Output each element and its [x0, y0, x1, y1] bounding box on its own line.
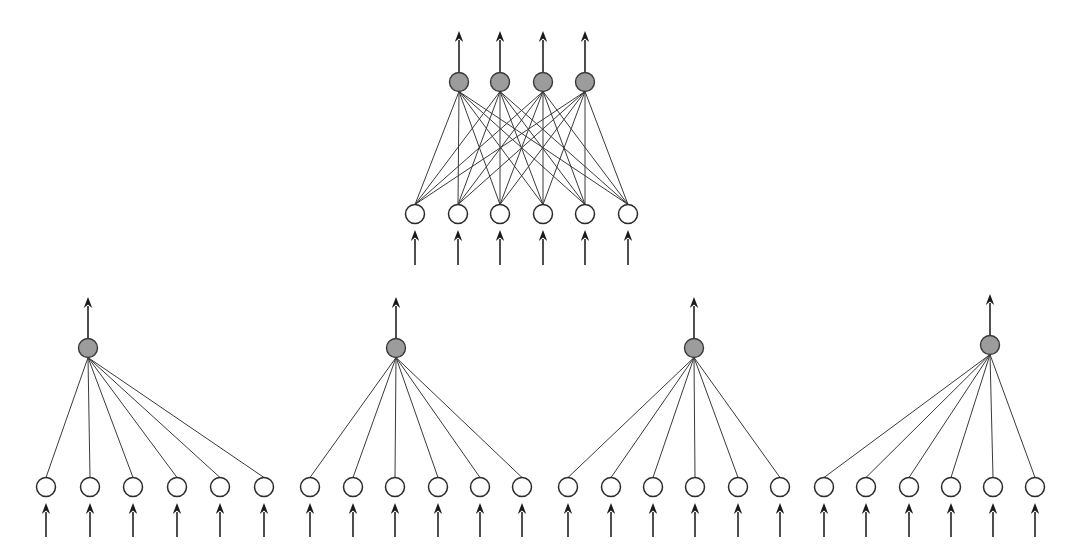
input-arrow-module-3-4 [691, 503, 699, 537]
input-node[interactable] [168, 478, 187, 497]
output-arrow-top-network-3 [539, 31, 547, 72]
input-node[interactable] [471, 478, 490, 497]
edge-m1-out-1-m1-in-4 [88, 358, 177, 478]
output-node[interactable] [491, 73, 510, 92]
edge-m1-out-1-m1-in-3 [88, 358, 133, 478]
input-node[interactable] [513, 478, 532, 497]
edge-m1-out-1-m1-in-6 [88, 358, 264, 478]
edge-m4-out-1-m4-in-5 [990, 355, 993, 478]
input-arrow-module-2-5 [476, 503, 484, 537]
input-arrow-module-4-2 [862, 503, 870, 537]
input-node[interactable] [491, 205, 510, 224]
input-node[interactable] [559, 478, 578, 497]
input-arrow-module-1-6 [260, 503, 268, 537]
input-arrow-module-4-1 [820, 503, 828, 537]
input-node[interactable] [576, 205, 595, 224]
output-node[interactable] [981, 336, 1000, 355]
output-arrow-top-network-4 [581, 31, 589, 72]
edge-m4-out-1-m4-in-6 [990, 355, 1035, 478]
input-node[interactable] [124, 478, 143, 497]
input-arrow-module-1-5 [216, 503, 224, 537]
input-arrow-module-3-1 [564, 503, 572, 537]
input-node[interactable] [857, 478, 876, 497]
input-arrow-module-1-2 [86, 503, 94, 537]
input-arrow-module-2-3 [391, 503, 399, 537]
edge-m1-out-1-m1-in-2 [88, 358, 90, 478]
output-node[interactable] [576, 73, 595, 92]
input-node[interactable] [406, 205, 425, 224]
input-node[interactable] [686, 478, 705, 497]
input-arrow-module-1-4 [173, 503, 181, 537]
output-arrow-module-2-1 [392, 297, 400, 338]
network-canvas [0, 0, 1083, 560]
edge-m3-out-1-m3-in-4 [694, 358, 695, 478]
input-node[interactable] [301, 478, 320, 497]
input-node[interactable] [429, 478, 448, 497]
input-node[interactable] [1026, 478, 1045, 497]
input-arrow-top-network-4 [539, 230, 547, 265]
input-node[interactable] [771, 478, 790, 497]
input-arrow-module-3-3 [649, 503, 657, 537]
input-node[interactable] [255, 478, 274, 497]
edge-m1-out-1-m1-in-1 [46, 358, 88, 478]
input-node[interactable] [211, 478, 230, 497]
input-node[interactable] [984, 478, 1003, 497]
input-node[interactable] [815, 478, 834, 497]
edge-m3-out-1-m3-in-6 [694, 358, 780, 478]
output-arrow-module-4-1 [986, 294, 994, 335]
input-arrow-module-2-4 [434, 503, 442, 537]
input-arrow-module-2-1 [306, 503, 314, 537]
edge-m2-out-1-m2-in-2 [353, 358, 396, 478]
output-node[interactable] [450, 73, 469, 92]
input-arrow-top-network-1 [411, 230, 419, 265]
edge-m2-out-1-m2-in-5 [396, 358, 480, 478]
edge-m3-out-1-m3-in-1 [568, 358, 694, 478]
edge-m2-out-1-m2-in-6 [396, 358, 522, 478]
edge-m1-out-1-m1-in-5 [88, 358, 220, 478]
input-node[interactable] [449, 205, 468, 224]
edge-t-out-3-t-in-1 [415, 92, 543, 205]
input-arrow-module-4-4 [947, 503, 955, 537]
input-node[interactable] [37, 478, 56, 497]
edge-m2-out-1-m2-in-4 [396, 358, 438, 478]
input-arrow-module-3-5 [734, 503, 742, 537]
output-node[interactable] [685, 339, 704, 358]
input-arrow-module-3-6 [776, 503, 784, 537]
input-node[interactable] [900, 478, 919, 497]
input-node[interactable] [534, 205, 553, 224]
output-node[interactable] [387, 339, 406, 358]
edge-m3-out-1-m3-in-2 [611, 358, 694, 478]
input-arrow-top-network-3 [496, 230, 504, 265]
input-arrow-module-2-2 [349, 503, 357, 537]
edge-m3-out-1-m3-in-3 [653, 358, 694, 478]
input-arrow-top-network-2 [454, 230, 462, 265]
input-node[interactable] [729, 478, 748, 497]
edge-t-out-2-t-in-1 [415, 92, 500, 205]
output-arrow-top-network-2 [496, 31, 504, 72]
edge-m2-out-1-m2-in-3 [395, 358, 396, 478]
nodes-layer [37, 73, 1045, 497]
input-arrow-top-network-5 [581, 230, 589, 265]
edge-m4-out-1-m4-in-4 [951, 355, 990, 478]
edge-t-out-1-t-in-1 [415, 92, 459, 205]
input-node[interactable] [619, 205, 638, 224]
input-arrow-module-3-2 [607, 503, 615, 537]
input-node[interactable] [81, 478, 100, 497]
input-arrow-top-network-6 [624, 230, 632, 265]
output-arrow-module-3-1 [690, 297, 698, 338]
input-node[interactable] [344, 478, 363, 497]
edges-layer [46, 92, 1035, 478]
output-node[interactable] [79, 339, 98, 358]
input-node[interactable] [942, 478, 961, 497]
input-node[interactable] [602, 478, 621, 497]
input-node[interactable] [644, 478, 663, 497]
edge-t-out-1-t-in-2 [458, 92, 459, 205]
input-arrow-module-1-1 [42, 503, 50, 537]
edge-m4-out-1-m4-in-1 [824, 355, 990, 478]
output-arrow-module-1-1 [84, 297, 92, 338]
input-arrow-module-2-6 [518, 503, 526, 537]
input-node[interactable] [386, 478, 405, 497]
neural-network-diagram [0, 0, 1083, 560]
input-arrow-module-4-5 [989, 503, 997, 537]
output-node[interactable] [534, 73, 553, 92]
